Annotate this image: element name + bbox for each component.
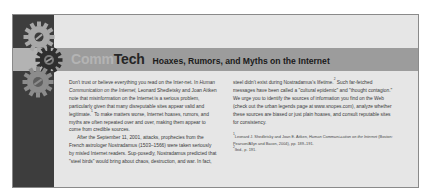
- paragraph: After the September 11, 2001, attacks, p…: [69, 134, 217, 166]
- gear-icon: [22, 66, 54, 98]
- brand-tech: Tech: [114, 51, 145, 67]
- footnote: 1Leonard J. Shedletsky and Joan E. Aitke…: [233, 134, 393, 146]
- paragraph: steel didn't exist during Nostradamus's …: [233, 79, 393, 126]
- paragraph: Don't trust or believe everything you re…: [69, 79, 217, 134]
- brand-comm: Comm: [71, 51, 114, 67]
- body-column-left: Don't trust or believe everything you re…: [69, 79, 217, 166]
- feature-title: Comm Tech Hoaxes, Rumors, and Myths on t…: [71, 51, 330, 69]
- commtech-feature-box: Comm Tech Hoaxes, Rumors, and Myths on t…: [12, 14, 419, 188]
- footnotes: 1Leonard J. Shedletsky and Joan E. Aitke…: [233, 134, 393, 152]
- body-column-right: steel didn't exist during Nostradamus's …: [233, 79, 393, 153]
- footnote: 2Ibid., p. 191.: [233, 147, 393, 153]
- headline: Hoaxes, Rumors, and Myths on the Interne…: [153, 56, 330, 66]
